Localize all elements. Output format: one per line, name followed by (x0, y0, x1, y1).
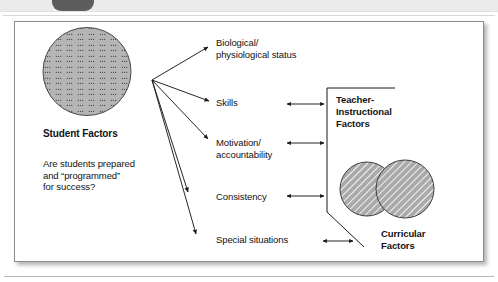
student-factors-title: Student Factors (43, 128, 118, 140)
student-factors-question: Are students prepared and “programmed” f… (43, 158, 135, 193)
venn-circle-right (376, 160, 434, 218)
factor-label-biological: Biological/ physiological status (216, 37, 296, 60)
fan-arrow-consistency (152, 80, 188, 192)
fan-arrow-group (152, 47, 209, 234)
fan-arrow-skills (152, 80, 209, 101)
curricular-factors-venn (340, 160, 434, 218)
factor-label-skills: Skills (216, 97, 238, 109)
fan-arrow-biological (152, 47, 208, 80)
footer-divider-rule (4, 276, 494, 277)
factor-label-motivation: Motivation/ accountability (216, 137, 272, 160)
factor-label-special-situations: Special situations (216, 234, 288, 246)
factor-label-consistency: Consistency (216, 191, 267, 203)
curricular-factors-title: Curricular Factors (381, 228, 425, 252)
screenshot-root: Student Factors Are students prepared an… (0, 0, 498, 282)
student-factors-circle (43, 28, 131, 116)
teacher-instructional-factors-title: Teacher- Instructional Factors (336, 94, 392, 130)
